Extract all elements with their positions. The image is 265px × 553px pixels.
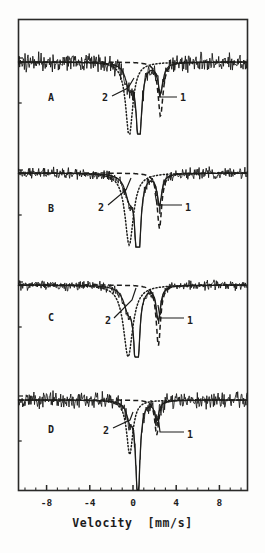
x-tick-label-4: 8 (217, 497, 223, 508)
x-tick-label-3: 4 (173, 497, 179, 508)
annotation-label-c-1: 1 (187, 315, 193, 326)
x-axis-title: Velocity [mm/s] (0, 516, 265, 530)
leader-line-d-1 (158, 416, 184, 432)
panel-letter-a: A (48, 92, 54, 103)
annotation-label-b-1: 1 (185, 202, 191, 213)
annotation-label-a-1: 1 (180, 92, 186, 103)
x-tick-label-0: -8 (41, 497, 52, 508)
annotation-label-d-2: 2 (103, 425, 109, 436)
annotation-label-c-2: 2 (105, 315, 111, 326)
x-tick-label-1: -4 (84, 497, 95, 508)
subspectrum-1-b (19, 173, 247, 229)
panel-letter-c: C (48, 312, 54, 323)
annotation-label-b-2: 2 (98, 202, 104, 213)
x-tick-label-2: 0 (130, 497, 136, 508)
spectra-plot-canvas (0, 0, 265, 553)
panel-letter-b: B (48, 203, 54, 214)
panel-d-trace (19, 391, 248, 490)
annotation-leaders (108, 78, 184, 432)
panel-letter-d: D (48, 424, 54, 435)
annotation-label-a-2: 2 (102, 92, 108, 103)
measured-spectrum-d (19, 391, 248, 490)
mossbauer-spectra-figure: -8-4048 A B C D 2 1 2 1 2 1 2 1 Velocity… (0, 0, 265, 553)
annotation-label-d-1: 1 (187, 429, 193, 440)
plot-frame (19, 20, 248, 491)
